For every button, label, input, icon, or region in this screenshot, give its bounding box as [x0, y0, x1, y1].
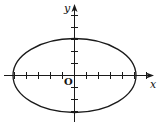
ellipse-diagram: y x O: [0, 0, 158, 125]
coordinate-plot: [0, 0, 158, 125]
origin-label: O: [64, 77, 73, 87]
x-axis-label: x: [150, 79, 156, 90]
y-axis-label: y: [64, 3, 70, 14]
